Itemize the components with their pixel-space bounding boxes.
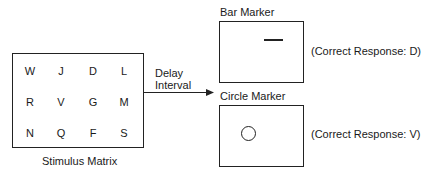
matrix-cell: V <box>53 96 69 108</box>
circle-marker-icon <box>241 126 256 141</box>
matrix-cell: N <box>22 127 38 139</box>
matrix-cell: W <box>22 65 38 77</box>
matrix-cell: R <box>22 96 38 108</box>
matrix-cell: L <box>116 65 132 77</box>
matrix-cell: J <box>53 65 69 77</box>
bar-marker-icon <box>264 39 283 41</box>
arrowhead-icon <box>206 89 214 96</box>
matrix-cell: D <box>85 65 101 77</box>
matrix-cell: M <box>116 96 132 108</box>
bar-marker-title: Bar Marker <box>220 6 274 18</box>
bar-marker-box <box>219 21 304 83</box>
delay-label-line2: Interval <box>155 79 191 91</box>
bar-correct-response: (Correct Response: D) <box>311 45 421 57</box>
circle-marker-box <box>219 105 304 167</box>
delay-arrow-line <box>144 92 210 93</box>
matrix-cell: G <box>85 96 101 108</box>
matrix-cell: F <box>85 127 101 139</box>
circle-marker-title: Circle Marker <box>220 90 285 102</box>
stimulus-matrix-box: W J D L R V G M N Q F S <box>12 53 144 148</box>
circle-correct-response: (Correct Response: V) <box>311 128 420 140</box>
delay-label-line1: Delay <box>155 67 183 79</box>
stimulus-caption: Stimulus Matrix <box>42 155 117 167</box>
matrix-cell: Q <box>53 127 69 139</box>
matrix-cell: S <box>116 127 132 139</box>
